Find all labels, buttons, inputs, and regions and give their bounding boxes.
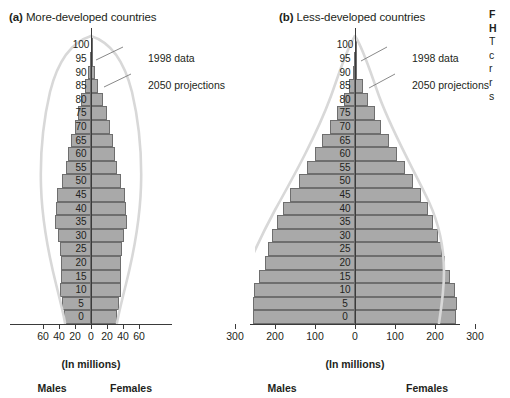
age-label-95: 95	[75, 52, 86, 66]
pyramid-row	[0, 283, 255, 297]
pyramid-row	[0, 174, 255, 188]
panel-a-males-label: Males	[37, 382, 66, 394]
age-label-15: 15	[75, 270, 86, 284]
axis-tick	[355, 324, 356, 329]
pyramid-row	[255, 270, 470, 284]
pyramid-row	[0, 242, 255, 256]
axis-tick-label-40-1: 40	[53, 330, 65, 342]
bar-female-age-65	[355, 134, 389, 148]
panel-b-marker: (b)	[279, 11, 293, 23]
pyramid-row	[255, 66, 470, 80]
bar-female-age-20	[91, 256, 121, 270]
pyramid-row	[255, 174, 470, 188]
caption-line-3: T	[489, 35, 510, 49]
bar-female-age-55	[355, 161, 405, 175]
pyramid-row	[0, 106, 255, 120]
pyramid-row	[255, 229, 470, 243]
figure-caption-clipped: F H T c r r s	[489, 8, 510, 118]
panel-b-annotation-1998: 1998 data	[412, 52, 459, 64]
axis-tick-label-0-3: 0	[352, 330, 358, 342]
age-label-35: 35	[339, 215, 350, 229]
bar-female-age-70	[355, 120, 381, 134]
axis-tick	[235, 324, 236, 329]
pyramid-row	[255, 134, 470, 148]
bar-female-age-10	[355, 283, 455, 297]
age-label-35: 35	[75, 215, 86, 229]
panel-more-developed: (a) More-developed countries 10095908580…	[0, 0, 255, 398]
bar-female-age-25	[91, 242, 122, 256]
age-label-65: 65	[339, 134, 350, 148]
pyramid-row	[0, 38, 255, 52]
bar-female-age-50	[355, 174, 413, 188]
axis-tick	[395, 324, 396, 329]
pyramid-row	[0, 297, 255, 311]
panel-a-pyramid: 1009590858075706560555045403530252015105…	[0, 34, 255, 324]
age-label-40: 40	[75, 202, 86, 216]
pyramid-row	[0, 161, 255, 175]
age-label-40: 40	[339, 202, 350, 216]
pyramid-row	[0, 120, 255, 134]
age-label-80: 80	[339, 93, 350, 107]
axis-tick	[435, 324, 436, 329]
age-label-10: 10	[339, 283, 350, 297]
panel-less-developed: (b) Less-developed countries 10095908580…	[255, 0, 470, 398]
bar-female-age-40	[355, 202, 428, 216]
axis-tick-label-0-3: 0	[88, 330, 94, 342]
bar-female-age-40	[91, 202, 126, 216]
caption-line-2: H	[489, 22, 510, 36]
age-label-80: 80	[75, 93, 86, 107]
axis-tick-label-200-5: 200	[426, 330, 444, 342]
center-axis-line	[91, 28, 92, 324]
age-label-50: 50	[75, 174, 86, 188]
bar-female-age-5	[91, 297, 119, 311]
axis-tick-label-300-0: 300	[226, 330, 244, 342]
pyramid-row	[255, 120, 470, 134]
bar-female-age-20	[355, 256, 445, 270]
center-axis-line	[355, 28, 356, 324]
population-pyramid-figure: (a) More-developed countries 10095908580…	[0, 0, 510, 398]
pyramid-row	[0, 134, 255, 148]
age-label-25: 25	[75, 242, 86, 256]
age-label-55: 55	[339, 161, 350, 175]
age-label-30: 30	[75, 229, 86, 243]
caption-line-5: r	[489, 62, 510, 76]
axis-tick	[475, 324, 476, 329]
bar-female-age-30	[355, 229, 438, 243]
age-label-50: 50	[339, 174, 350, 188]
pyramid-row	[0, 256, 255, 270]
bar-female-age-75	[355, 106, 375, 120]
caption-line-7: s	[489, 90, 510, 104]
bar-female-age-80	[91, 93, 103, 107]
caption-line-4: c	[489, 49, 510, 63]
pyramid-row	[0, 188, 255, 202]
pyramid-row	[0, 147, 255, 161]
axis-tick-label-300-6: 300	[466, 330, 484, 342]
panel-a-annotation-1998: 1998 data	[148, 52, 195, 64]
pyramid-row	[255, 215, 470, 229]
age-label-0: 0	[78, 310, 84, 324]
bar-female-age-60	[91, 147, 115, 161]
panel-a-annotation-2050: 2050 projections	[148, 79, 225, 91]
axis-tick	[91, 324, 92, 329]
age-label-20: 20	[339, 256, 350, 270]
bar-female-age-45	[355, 188, 421, 202]
pyramid-row	[255, 256, 470, 270]
pyramid-row	[255, 297, 470, 311]
bar-female-age-80	[355, 93, 368, 107]
panel-b-units-label: (In millions)	[326, 358, 385, 370]
axis-tick-label-60-6: 60	[133, 330, 145, 342]
panel-b-females-label: Females	[406, 382, 448, 394]
panel-a-title-text: More-developed countries	[26, 11, 157, 23]
age-label-60: 60	[339, 147, 350, 161]
age-label-15: 15	[339, 270, 350, 284]
bar-female-age-10	[91, 283, 121, 297]
axis-tick	[107, 324, 108, 329]
axis-tick-label-200-1: 200	[266, 330, 284, 342]
age-label-25: 25	[339, 242, 350, 256]
bar-female-age-55	[91, 161, 117, 175]
axis-tick	[315, 324, 316, 329]
age-label-55: 55	[75, 161, 86, 175]
bar-female-age-50	[91, 174, 121, 188]
bar-female-age-0	[91, 310, 117, 324]
panel-a-females-label: Females	[110, 382, 152, 394]
